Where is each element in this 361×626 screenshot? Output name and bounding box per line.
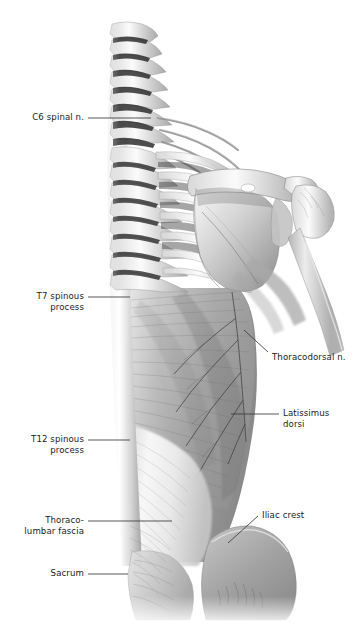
label-c6-spinal-n: C6 spinal n.	[22, 112, 84, 123]
right-fade	[330, 0, 361, 626]
anatomy-plate: C6 spinal n. T7 spinous process T12 spin…	[0, 0, 361, 626]
label-sacrum: Sacrum	[30, 568, 84, 579]
top-mask	[0, 0, 361, 20]
label-thoracodorsal-n: Thoracodorsal n.	[272, 352, 358, 363]
label-t7-spinous-process: T7 spinous process	[22, 291, 84, 313]
label-t12-spinous-process: T12 spinous process	[16, 434, 84, 456]
label-thoracolumbar-fascia: Thoraco- lumbar fascia	[12, 515, 84, 537]
left-fade	[86, 0, 120, 626]
bottom-fade	[0, 596, 361, 626]
label-latissimus-dorsi: Latissimus dorsi	[283, 408, 355, 430]
label-iliac-crest: Iliac crest	[262, 510, 324, 521]
